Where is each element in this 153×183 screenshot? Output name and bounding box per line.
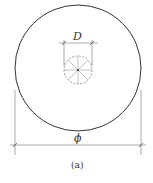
label-phi: ϕ — [74, 132, 82, 145]
diagram-canvas: D ϕ (a) — [0, 0, 153, 183]
center-point — [77, 69, 79, 71]
label-d: D — [72, 30, 82, 43]
caption: (a) — [71, 160, 83, 170]
dimension-phi — [10, 90, 146, 155]
dimension-d — [59, 40, 98, 66]
inner-hole — [64, 56, 92, 84]
